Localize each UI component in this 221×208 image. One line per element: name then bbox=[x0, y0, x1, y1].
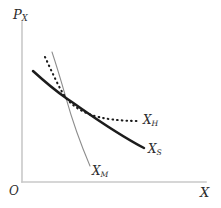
marshallian-curve-label: XM bbox=[92, 165, 108, 179]
origin-label: O bbox=[9, 185, 19, 197]
demand-curves-figure: PX X O XH XS XM bbox=[0, 0, 221, 208]
y-axis-label: PX bbox=[13, 8, 28, 23]
hicksian-curve-label: XH bbox=[143, 114, 158, 128]
marshallian-label-main: X bbox=[92, 164, 101, 178]
slutsky-demand-curve bbox=[33, 71, 144, 148]
figure-canvas bbox=[0, 0, 221, 208]
slutsky-label-main: X bbox=[148, 142, 157, 156]
hicksian-demand-curve bbox=[45, 57, 140, 121]
slutsky-curve-label: XS bbox=[148, 143, 162, 157]
x-axis-label: X bbox=[200, 186, 209, 199]
slutsky-label-subscript: S bbox=[157, 148, 162, 157]
y-axis-label-subscript: X bbox=[22, 13, 28, 23]
y-axis-label-main: P bbox=[13, 7, 22, 22]
hicksian-label-subscript: H bbox=[152, 119, 159, 128]
x-axis-label-main: X bbox=[200, 185, 209, 200]
marshallian-label-subscript: M bbox=[101, 170, 109, 179]
marshallian-demand-curve bbox=[52, 52, 90, 166]
hicksian-label-main: X bbox=[143, 113, 152, 127]
